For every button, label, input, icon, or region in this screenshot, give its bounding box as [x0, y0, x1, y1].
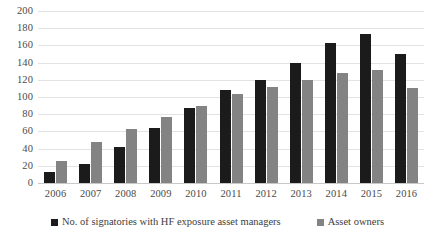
y-axis: 200180160140120100806040200	[0, 11, 33, 183]
y-axis-tick-label: 0	[28, 178, 33, 189]
legend-item-label: Asset owners	[328, 217, 384, 228]
bar-group	[319, 11, 354, 183]
bar-group	[389, 11, 424, 183]
legend-item[interactable]: No. of signatories with HF exposure asse…	[51, 217, 281, 228]
bar	[302, 80, 313, 183]
legend-item[interactable]: Asset owners	[317, 217, 384, 228]
bar	[161, 117, 172, 183]
x-axis-tick-label: 2011	[213, 185, 248, 203]
bar	[337, 73, 348, 183]
x-axis-tick-label: 2014	[319, 185, 354, 203]
bar	[220, 90, 231, 183]
x-axis-tick-label: 2016	[389, 185, 424, 203]
plot-area: 200180160140120100806040200	[0, 0, 435, 200]
chart-legend: No. of signatories with HF exposure asse…	[0, 212, 435, 232]
x-axis-tick-label: 2013	[284, 185, 319, 203]
bar	[255, 80, 266, 183]
y-axis-tick-label: 140	[17, 57, 33, 68]
bar	[372, 70, 383, 183]
legend-swatch-icon	[317, 219, 324, 226]
y-axis-tick-label: 200	[17, 6, 33, 17]
bar-group	[108, 11, 143, 183]
bar	[149, 128, 160, 183]
bar-chart: 200180160140120100806040200 200620072008…	[0, 0, 435, 240]
bar	[114, 147, 125, 183]
bar	[44, 172, 55, 183]
bar-group	[354, 11, 389, 183]
x-axis-tick-label: 2008	[108, 185, 143, 203]
bar	[232, 94, 243, 183]
y-axis-tick-label: 120	[17, 75, 33, 86]
bar	[290, 63, 301, 183]
bar	[196, 106, 207, 183]
bar	[79, 164, 90, 183]
bar-group	[38, 11, 73, 183]
bar-group	[143, 11, 178, 183]
x-axis: 2006200720082009201020112012201320142015…	[38, 185, 424, 203]
y-axis-tick-label: 160	[17, 40, 33, 51]
x-axis-tick-label: 2010	[178, 185, 213, 203]
x-axis-tick-label: 2006	[38, 185, 73, 203]
legend-swatch-icon	[51, 219, 58, 226]
bar-group	[249, 11, 284, 183]
y-axis-tick-label: 60	[22, 126, 33, 137]
bar-group	[178, 11, 213, 183]
y-axis-tick-label: 40	[22, 143, 33, 154]
bar	[395, 54, 406, 183]
y-axis-tick-label: 80	[22, 109, 33, 120]
bar	[56, 161, 67, 183]
bar	[184, 108, 195, 183]
bar	[267, 87, 278, 183]
bars-layer	[38, 11, 424, 183]
x-axis-line	[38, 183, 424, 184]
bar	[407, 88, 418, 183]
bar-group	[73, 11, 108, 183]
bar	[91, 142, 102, 183]
bar-group	[213, 11, 248, 183]
bar	[126, 129, 137, 183]
x-axis-tick-label: 2015	[354, 185, 389, 203]
bar-group	[284, 11, 319, 183]
y-axis-tick-label: 100	[17, 92, 33, 103]
bar	[325, 43, 336, 183]
y-axis-tick-label: 20	[22, 161, 33, 172]
x-axis-tick-label: 2007	[73, 185, 108, 203]
x-axis-tick-label: 2009	[143, 185, 178, 203]
y-axis-tick-label: 180	[17, 23, 33, 34]
x-axis-tick-label: 2012	[249, 185, 284, 203]
legend-item-label: No. of signatories with HF exposure asse…	[62, 217, 281, 228]
bar	[360, 34, 371, 183]
